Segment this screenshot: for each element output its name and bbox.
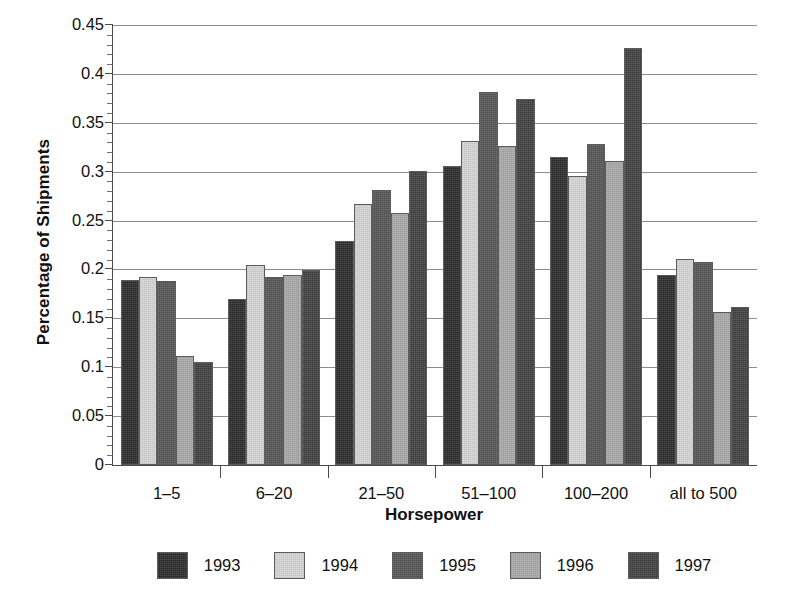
y-tick-label: 0: [95, 455, 104, 474]
x-category-label: 51–100: [461, 484, 516, 503]
bar: [372, 190, 390, 465]
bar: [461, 141, 479, 465]
bar: [498, 146, 516, 465]
bar: [479, 92, 497, 466]
bar: [409, 171, 427, 465]
x-tick: [650, 465, 651, 478]
y-tick-label: 0.45: [72, 15, 104, 34]
bar: [550, 157, 568, 465]
y-tick-major: [105, 171, 113, 172]
legend-item: 1995: [392, 552, 476, 579]
legend-label: 1995: [439, 556, 476, 575]
bar: [443, 166, 461, 465]
x-tick: [328, 465, 329, 478]
legend-swatch: [274, 552, 305, 579]
bar: [624, 48, 642, 465]
bar: [139, 277, 157, 465]
legend: 19931994199519961997: [112, 552, 756, 579]
bar: [713, 312, 731, 465]
legend-swatch: [392, 552, 423, 579]
x-tick: [220, 465, 221, 478]
y-tick-major: [105, 415, 113, 416]
x-tick: [542, 465, 543, 478]
plot-area: 00.050.10.150.20.250.30.350.40.45 1–56–2…: [112, 25, 757, 466]
y-tick-label: 0.15: [72, 308, 104, 327]
bar-chart: Percentage of Shipments 00.050.10.150.20…: [0, 0, 795, 606]
x-category-label: 6–20: [256, 484, 293, 503]
bar: [694, 262, 712, 465]
y-tick-label: 0.4: [81, 64, 104, 83]
y-tick-major: [105, 220, 113, 221]
bar: [246, 265, 264, 465]
bar: [121, 280, 139, 465]
y-tick-label: 0.35: [72, 113, 104, 132]
bar: [283, 275, 301, 465]
bar: [605, 161, 623, 465]
y-axis-title: Percentage of Shipments: [34, 102, 54, 382]
bar: [194, 362, 212, 465]
legend-label: 1994: [321, 556, 358, 575]
bar: [731, 307, 749, 465]
y-tick-label: 0.25: [72, 211, 104, 230]
x-category-label: 21–50: [358, 484, 404, 503]
bar: [676, 259, 694, 465]
y-tick-major: [105, 268, 113, 269]
legend-item: 1994: [274, 552, 358, 579]
bar: [354, 204, 372, 465]
y-tick-major: [105, 24, 113, 25]
y-tick-label: 0.2: [81, 260, 104, 279]
bar: [568, 176, 586, 465]
y-tick-major: [105, 366, 113, 367]
bars-layer: [113, 25, 757, 465]
legend-swatch: [510, 552, 541, 579]
legend-item: 1993: [157, 552, 241, 579]
y-tick-major: [105, 464, 113, 465]
legend-label: 1996: [557, 556, 594, 575]
legend-label: 1993: [204, 556, 241, 575]
y-tick-label: 0.3: [81, 162, 104, 181]
x-category-label: 100–200: [564, 484, 628, 503]
legend-swatch: [157, 552, 188, 579]
bar: [657, 275, 675, 465]
legend-label: 1997: [675, 556, 712, 575]
bar: [587, 144, 605, 465]
y-tick-label: 0.1: [81, 357, 104, 376]
bar: [176, 356, 194, 466]
bar: [516, 99, 534, 465]
y-tick-major: [105, 317, 113, 318]
bar: [335, 241, 353, 465]
legend-item: 1996: [510, 552, 594, 579]
bar: [265, 277, 283, 465]
x-category-label: 1–5: [153, 484, 181, 503]
y-tick-major: [105, 73, 113, 74]
x-category-label: all to 500: [670, 484, 737, 503]
y-tick-major: [105, 122, 113, 123]
bar: [302, 270, 320, 465]
bar: [157, 281, 175, 465]
legend-swatch: [628, 552, 659, 579]
bar: [228, 299, 246, 465]
x-tick: [435, 465, 436, 478]
x-axis-title: Horsepower: [112, 505, 756, 525]
bar: [391, 213, 409, 465]
y-tick-label: 0.05: [72, 406, 104, 425]
legend-item: 1997: [628, 552, 712, 579]
